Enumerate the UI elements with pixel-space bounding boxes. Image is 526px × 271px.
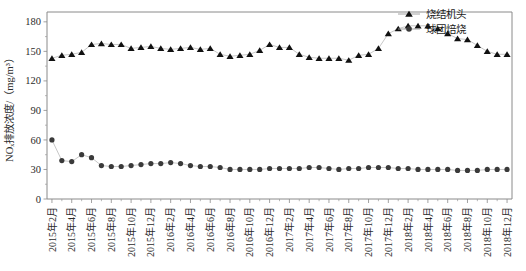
data-point [484, 48, 491, 54]
data-point [346, 166, 351, 171]
data-point [266, 41, 273, 47]
legend-item-1[interactable]: 烧结机头 [398, 8, 466, 20]
data-point [246, 51, 253, 57]
y-tick-label: 120 [25, 75, 41, 86]
data-point [307, 165, 312, 170]
x-tick-label: 2018年8月 [461, 207, 473, 252]
x-axis-labels: 2015年2月2015年4月2015年6月2015年8月2015年10月2015… [46, 207, 513, 257]
data-point [336, 167, 341, 172]
data-point [287, 166, 292, 171]
data-point [98, 40, 105, 46]
data-point [376, 165, 381, 170]
x-tick-label: 2017年10月 [362, 207, 374, 257]
x-tick-label: 2018年12月 [501, 207, 513, 257]
x-tick-label: 2016年12月 [263, 207, 275, 257]
y-tick-label: 0 [36, 194, 41, 205]
data-point [465, 168, 470, 173]
y-tick-label: 90 [31, 105, 42, 116]
data-point [49, 137, 54, 142]
data-point [454, 35, 461, 41]
x-tick-label: 2016年10月 [243, 207, 255, 257]
chart-container: 0306090120150180 2015年2月2015年4月2015年6月20… [0, 0, 526, 271]
data-point [89, 155, 94, 160]
y-tick-label: 180 [25, 16, 41, 27]
data-point [138, 162, 143, 167]
data-point [158, 161, 163, 166]
x-tick-label: 2015年10月 [125, 207, 137, 257]
x-tick-label: 2018年6月 [441, 207, 453, 252]
data-point [297, 166, 302, 171]
data-point [59, 158, 64, 163]
data-point [474, 42, 481, 48]
legend-circle-icon [406, 26, 412, 32]
data-point [366, 165, 371, 170]
data-point [415, 167, 420, 172]
x-axis-ticks [52, 199, 507, 203]
data-point [208, 164, 213, 169]
x-tick-label: 2017年6月 [323, 207, 335, 252]
data-point [435, 167, 440, 172]
x-tick-label: 2015年2月 [46, 207, 58, 252]
data-point [217, 51, 224, 57]
data-point [395, 26, 402, 32]
y-axis-ticks: 0306090120150180 [25, 16, 47, 204]
data-point [79, 152, 84, 157]
x-tick-label: 2015年8月 [105, 207, 117, 252]
series-2 [49, 137, 509, 173]
series-layer [48, 23, 510, 173]
data-point [198, 164, 203, 169]
x-tick-label: 2016年2月 [164, 207, 176, 252]
data-point [99, 163, 104, 168]
data-point [385, 31, 392, 37]
data-point [178, 161, 183, 166]
y-axis-title: NOₓ排放浓度/（mg/m³） [3, 53, 15, 162]
data-point [267, 166, 272, 171]
data-point [495, 167, 500, 172]
data-point [119, 164, 124, 169]
data-point [277, 166, 282, 171]
data-point [386, 165, 391, 170]
x-tick-label: 2017年8月 [342, 207, 354, 252]
data-point [227, 167, 232, 172]
x-tick-label: 2015年4月 [65, 207, 77, 252]
x-tick-label: 2016年8月 [224, 207, 236, 252]
data-point [128, 163, 133, 168]
data-point [237, 167, 242, 172]
data-point [365, 51, 372, 57]
data-point [109, 164, 114, 169]
nox-emission-line-chart: 0306090120150180 2015年2月2015年4月2015年6月20… [0, 0, 526, 271]
x-tick-label: 2018年2月 [402, 207, 414, 252]
data-point [187, 44, 194, 50]
data-point [455, 168, 460, 173]
data-point [188, 163, 193, 168]
data-point [218, 165, 223, 170]
data-point [375, 45, 382, 51]
data-point [48, 55, 55, 61]
y-axis-title-text: NOₓ排放浓度/（mg/m³） [3, 53, 15, 162]
y-tick-label: 60 [31, 135, 42, 146]
chart-legend: 烧结机头球团焙烧 [398, 8, 467, 35]
data-point [207, 45, 214, 51]
data-point [316, 165, 321, 170]
data-point [504, 167, 509, 172]
data-point [445, 167, 450, 172]
x-tick-label: 2015年6月 [85, 207, 97, 252]
x-tick-label: 2017年2月 [283, 207, 295, 252]
data-point [485, 167, 490, 172]
data-point [257, 167, 262, 172]
data-point [356, 166, 361, 171]
legend-label: 球团焙烧 [426, 23, 467, 35]
x-tick-label: 2018年4月 [422, 207, 434, 252]
x-tick-label: 2016年6月 [204, 207, 216, 252]
data-point [148, 161, 153, 166]
x-tick-label: 2017年12月 [382, 207, 394, 257]
x-tick-label: 2018年10月 [481, 207, 493, 257]
x-tick-label: 2017年4月 [303, 207, 315, 252]
data-point [147, 43, 154, 49]
x-tick-label: 2016年4月 [184, 207, 196, 252]
data-point [168, 160, 173, 165]
data-point [396, 166, 401, 171]
y-tick-label: 150 [25, 46, 41, 57]
data-point [69, 159, 74, 164]
data-point [306, 54, 313, 60]
